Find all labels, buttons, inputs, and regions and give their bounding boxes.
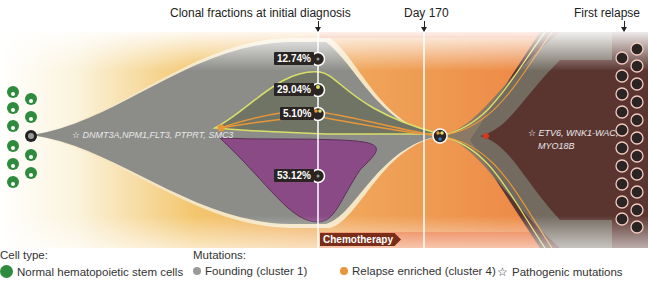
relapse-mutations-label-line2: MYO18B bbox=[538, 141, 575, 151]
legend-item-pathogenic: ☆ Pathogenic mutations bbox=[497, 265, 623, 279]
legend-mutations-title: Mutations: bbox=[193, 249, 246, 261]
founding-mutations-label: ☆ DNMT3A,NPM1,FLT3, PTPRT, SMC3 bbox=[72, 130, 233, 140]
arrow-down-icon bbox=[424, 21, 425, 31]
clone-fraction-badge: 12.74% bbox=[274, 52, 314, 65]
timepoint-label-diagnosis: Clonal fractions at initial diagnosis bbox=[170, 6, 351, 20]
legend-item-relapse-enriched: Relapse enriched (cluster 4) bbox=[340, 265, 496, 277]
star-outline-icon: ☆ bbox=[497, 265, 508, 279]
clone-fraction-badge: 53.12% bbox=[274, 169, 314, 182]
clonal-evolution-diagram: Clonal fractions at initial diagnosis Da… bbox=[0, 0, 648, 281]
legend-cell-type-title: Cell type: bbox=[0, 249, 48, 261]
star-icon: ☆ bbox=[72, 130, 80, 140]
legend-item-founding: Founding (cluster 1) bbox=[193, 265, 307, 277]
timepoint-label-relapse: First relapse bbox=[574, 6, 640, 20]
arrow-down-icon bbox=[624, 21, 625, 31]
timepoint-label-day170: Day 170 bbox=[404, 6, 449, 20]
orange-dot-icon bbox=[340, 267, 348, 275]
grey-dot-icon bbox=[193, 267, 201, 275]
legend-item-normal-cells: Normal hematopoietic stem cells bbox=[0, 265, 183, 278]
clone-fraction-badge: 29.04% bbox=[274, 83, 314, 96]
chemotherapy-label: Chemotherapy bbox=[320, 233, 401, 246]
clone-fraction-badge: 5.10% bbox=[280, 107, 314, 120]
green-circle-icon bbox=[0, 265, 13, 278]
star-icon: ☆ bbox=[528, 128, 536, 138]
relapse-mutations-label: ☆ ETV6, WNK1-WAC, bbox=[528, 128, 618, 138]
arrow-down-icon bbox=[318, 21, 319, 31]
